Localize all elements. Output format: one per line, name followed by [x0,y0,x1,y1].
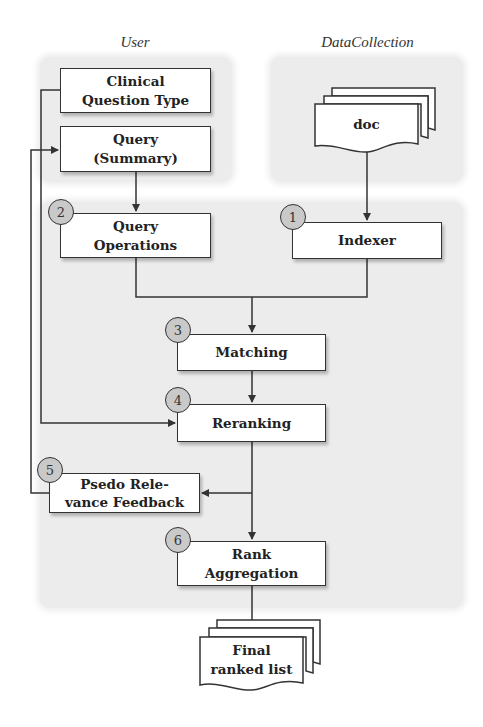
final-ranked-list-label: Final ranked list [200,641,303,679]
reranking-box: Reranking [177,404,326,442]
prf-label-1: Psedo Rele- [80,475,169,493]
doc-label: doc [315,115,418,134]
step-badge-3: 3 [165,317,191,343]
reranking-label: Reranking [212,414,291,433]
step-badge-1: 1 [280,204,306,230]
query-operations-label-2: Operations [94,236,177,255]
final-label-2: ranked list [200,660,303,679]
step-badge-5: 5 [37,457,63,483]
step-badge-4: 4 [165,387,191,413]
prf-label-2: vance Feedback [65,493,184,511]
query-summary-box: Query (Summary) [60,126,211,172]
query-operations-box: Query Operations [60,213,211,258]
clinical-question-type-label: Clinical Question Type [76,72,196,110]
query-operations-label-1: Query [113,217,158,236]
final-label-1: Final [200,641,303,660]
query-summary-label-1: Query [113,130,158,149]
matching-label: Matching [215,343,287,362]
step-badge-6: 6 [165,527,191,553]
rank-aggregation-label-1: Rank [232,545,271,564]
query-summary-label-2: (Summary) [93,149,178,168]
pseudo-relevance-feedback-box: Psedo Rele- vance Feedback [49,473,200,513]
rank-aggregation-label-2: Aggregation [205,564,298,583]
clinical-question-type-box: Clinical Question Type [60,68,211,113]
indexer-label: Indexer [338,231,396,250]
indexer-box: Indexer [292,222,442,259]
rank-aggregation-box: Rank Aggregation [177,541,326,586]
step-badge-2: 2 [48,199,74,225]
matching-box: Matching [177,334,326,371]
